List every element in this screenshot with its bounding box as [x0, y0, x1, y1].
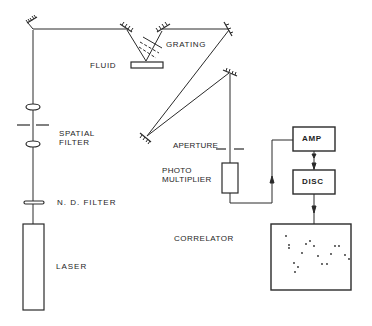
label-aperture: APERTURE	[173, 141, 218, 150]
plot-point	[288, 247, 290, 249]
plot-point	[301, 252, 303, 254]
lens-2	[26, 141, 40, 147]
plot-point	[321, 263, 323, 265]
plot-point	[309, 240, 311, 242]
plot-point	[297, 266, 299, 268]
arrow-down-icon	[312, 206, 316, 213]
lens-1	[26, 104, 40, 110]
label-laser: LASER	[56, 262, 87, 271]
mirror-icon	[120, 22, 133, 32]
plot-point	[285, 235, 287, 237]
plot-point	[293, 262, 295, 264]
correlator-plot-points	[285, 235, 350, 273]
arrow-down-icon	[312, 163, 316, 169]
beam-to-fluid	[127, 30, 146, 61]
nd-filter	[24, 201, 44, 204]
label-fluid: FLUID	[90, 61, 116, 70]
plot-point	[294, 271, 296, 273]
mirror-icon	[156, 22, 170, 32]
plot-point	[338, 245, 340, 247]
arrow-up-icon	[270, 176, 274, 183]
arrow-down-icon	[312, 154, 316, 158]
correlator-box	[271, 224, 351, 290]
label-grating: GRATING	[166, 40, 206, 49]
plot-point	[313, 245, 315, 247]
plot-point	[317, 255, 319, 257]
laser-box	[23, 224, 44, 310]
plot-point	[334, 245, 336, 247]
plot-point	[348, 258, 350, 260]
label-nd-filter: N. D. FILTER	[57, 198, 116, 207]
label-disc: DISC	[302, 177, 324, 186]
photomultiplier-box	[222, 163, 238, 193]
plot-point	[344, 254, 346, 256]
mirror-icon	[26, 15, 37, 29]
plot-point	[305, 243, 307, 245]
fluid-cell	[131, 62, 163, 68]
label-spatial-filter: SPATIAL FILTER	[59, 129, 95, 147]
label-photomultiplier: PHOTO MULTIPLIER	[162, 166, 212, 184]
plot-point	[326, 263, 328, 265]
label-correlator: CORRELATOR	[174, 234, 234, 243]
plot-point	[288, 244, 290, 246]
label-amp: AMP	[302, 134, 322, 143]
plot-point	[330, 253, 332, 255]
